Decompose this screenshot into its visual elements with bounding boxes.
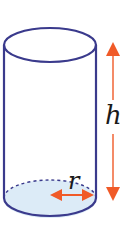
height-arrow-up-head — [106, 42, 120, 56]
top-ellipse — [4, 28, 96, 62]
radius-label: r — [68, 168, 79, 194]
height-label: h — [105, 100, 122, 130]
height-arrow-down-head — [106, 187, 120, 201]
